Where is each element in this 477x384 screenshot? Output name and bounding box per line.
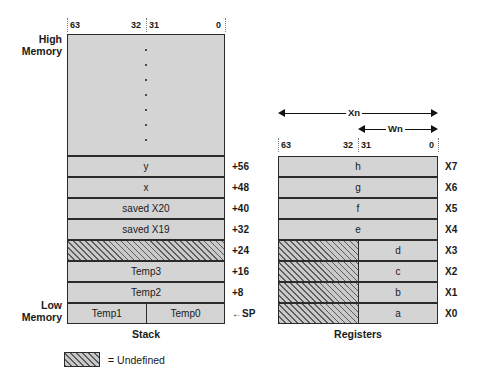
stack-offset-40: +40 [232, 204, 249, 214]
legend-label-undefined: = Undefined [108, 354, 165, 366]
register-row-x4: e [278, 219, 438, 240]
register-row-x7: h [278, 156, 438, 177]
register-value: f [279, 204, 437, 214]
legend-swatch-undefined [64, 352, 100, 367]
register-value: h [279, 162, 437, 172]
register-row-x1-lower: b [358, 282, 438, 303]
register-row-x3-upper [278, 240, 359, 261]
stack-row-label: y [68, 162, 224, 172]
register-span-xn: Xn [278, 107, 438, 119]
stack-row-label: Temp2 [68, 288, 224, 298]
high-memory-label: High Memory [4, 33, 62, 57]
stack-bit-label-63: 63 [70, 20, 80, 30]
stack-offset-16: +16 [232, 267, 249, 277]
xn-label: Xn [346, 108, 362, 118]
register-value: e [279, 225, 437, 235]
register-name-x4: X4 [445, 225, 457, 235]
stack-bit-guide-63 [67, 18, 68, 32]
register-row-x1-upper [278, 282, 359, 303]
stack-row-label: saved X19 [68, 225, 224, 235]
stack-offset-56: +56 [232, 162, 249, 172]
stack-offset-24: +24 [232, 246, 249, 256]
stack-bit-label-31: 31 [149, 20, 159, 30]
stack-row-undefined [67, 240, 225, 261]
register-value: a [359, 309, 437, 319]
stack-row-label: Temp3 [68, 267, 224, 277]
stack-row-label: saved X20 [68, 204, 224, 214]
register-bit-label-31: 31 [361, 140, 371, 150]
register-name-x3: X3 [445, 246, 457, 256]
register-name-x7: X7 [445, 162, 457, 172]
wn-label: Wn [386, 124, 405, 134]
register-name-x2: X2 [445, 267, 457, 277]
stack-bit-label-32: 32 [131, 20, 141, 30]
stack-row-label: x [68, 183, 224, 193]
stack-elided-region [67, 34, 225, 156]
wn-arrow-head-right [431, 125, 438, 133]
stack-row-temp2: Temp2 [67, 282, 225, 303]
stack-offset-8: +8 [232, 288, 243, 298]
stack-bit-guide-0 [225, 18, 226, 32]
stack-offset-32: +32 [232, 225, 249, 235]
register-name-x6: X6 [445, 183, 457, 193]
stack-row-label-right: Temp0 [147, 309, 224, 319]
register-row-x5: f [278, 198, 438, 219]
xn-arrow-head-right [431, 109, 438, 117]
register-bit-label-32: 32 [343, 140, 353, 150]
stack-row-temp3: Temp3 [67, 261, 225, 282]
stack-bit-label-0: 0 [216, 20, 221, 30]
register-bit-label-63: 63 [281, 140, 291, 150]
register-value: c [359, 267, 437, 277]
stack-row-temp0: Temp0 [146, 303, 225, 324]
stack-row-y: y [67, 156, 225, 177]
register-value: b [359, 288, 437, 298]
stack-offset-48: +48 [232, 183, 249, 193]
stack-caption: Stack [67, 328, 225, 340]
stack-row-label-left: Temp1 [68, 309, 146, 319]
register-span-wn: Wn [358, 123, 438, 135]
register-value: g [279, 183, 437, 193]
register-name-x5: X5 [445, 204, 457, 214]
register-row-x3-lower: d [358, 240, 438, 261]
register-row-x2-lower: c [358, 261, 438, 282]
stack-bit-guide-32 [146, 18, 147, 32]
low-memory-label: Low Memory [4, 299, 62, 323]
diagram-canvas: 63 32 31 0 High Memory y +56 x +48 saved… [0, 0, 477, 384]
register-row-x0-upper [278, 303, 359, 324]
register-row-x6: g [278, 177, 438, 198]
registers-caption: Registers [278, 328, 438, 340]
stack-row-temp1: Temp1 [67, 303, 147, 324]
stack-row-saved-x20: saved X20 [67, 198, 225, 219]
stack-row-x: x [67, 177, 225, 198]
register-value: d [359, 246, 437, 256]
register-bit-guide-0 [438, 138, 439, 152]
register-bit-guide-63 [278, 138, 279, 152]
stack-elided-dots [145, 49, 147, 141]
stack-offset-sp: ←SP [232, 309, 255, 319]
register-row-x0-lower: a [358, 303, 438, 324]
register-bit-guide-32 [358, 138, 359, 152]
register-name-x0: X0 [445, 309, 457, 319]
register-row-x2-upper [278, 261, 359, 282]
register-name-x1: X1 [445, 288, 457, 298]
stack-row-saved-x19: saved X19 [67, 219, 225, 240]
register-bit-label-0: 0 [429, 140, 434, 150]
